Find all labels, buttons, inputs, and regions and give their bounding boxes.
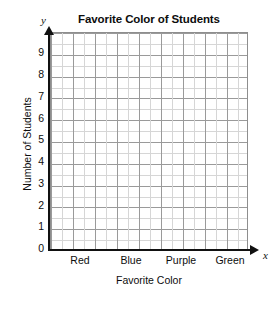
y-axis-line [48, 34, 50, 251]
plot-grid-area [50, 32, 248, 250]
x-category-labels: Red Blue Purple Green [0, 255, 279, 271]
y-tick-label: 0 [28, 243, 44, 254]
x-category-label: Green [200, 255, 260, 266]
x-axis-title: Favorite Color [50, 274, 248, 286]
chart-figure: Favorite Color of Students y x 9 8 7 6 5… [0, 0, 279, 309]
x-axis-arrow-icon [250, 245, 259, 255]
x-axis-line [48, 249, 251, 251]
y-axis-arrow-icon [44, 26, 54, 35]
y-axis-title: Number of Students [21, 64, 33, 224]
chart-title: Favorite Color of Students [50, 13, 248, 25]
y-tick-label: 9 [28, 47, 44, 58]
